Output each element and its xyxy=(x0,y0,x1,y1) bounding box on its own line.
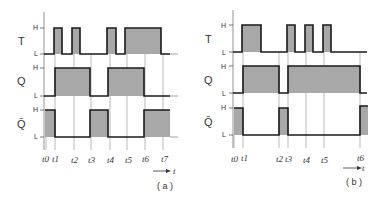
waveform-qbar-a xyxy=(45,110,178,137)
time-label-t4-b: t4 xyxy=(303,155,311,165)
diagram-a: H L H L H L T Q Q̄ t0 t1 t2 t3 t4 t5 t6 … xyxy=(17,12,178,191)
time-label-t5-a: t5 xyxy=(125,155,133,165)
time-label-t1-b: t1 xyxy=(241,153,248,163)
caption-a: ( a ) xyxy=(157,181,173,191)
level-l-q-a: L xyxy=(34,92,38,99)
time-label-t0-a: t0 xyxy=(42,154,50,164)
time-label-t3-b: t3 xyxy=(285,154,293,164)
level-l-t-b: L xyxy=(222,49,226,56)
time-label-t4-a: t4 xyxy=(107,155,115,165)
signal-name-q-b: Q xyxy=(204,74,213,86)
waveform-t-a xyxy=(44,28,178,54)
waveform-t-b xyxy=(233,25,367,52)
time-label-t3-a: t3 xyxy=(88,155,96,165)
diagram-b: H L H L H L T Q Q̄ t0 t1 t2 t3 t4 t5 t6 … xyxy=(204,10,368,187)
level-h-q-b: H xyxy=(221,63,226,70)
signal-name-q-a: Q xyxy=(17,75,26,87)
time-label-t7-a: t7 xyxy=(161,154,169,164)
level-l-qbar-b: L xyxy=(222,131,226,138)
time-label-t6-a: t6 xyxy=(142,154,150,164)
waveform-q-a xyxy=(44,68,178,96)
time-arrow-a: t xyxy=(153,166,176,176)
level-h-q-a: H xyxy=(33,64,38,71)
time-label-t1-a: t1 xyxy=(52,154,59,164)
signal-name-t-a: T xyxy=(18,35,25,47)
time-label-t0-b: t0 xyxy=(231,154,239,164)
level-h-t-a: H xyxy=(33,24,38,31)
time-axis-label-a: t xyxy=(173,166,176,176)
waveform-q-b xyxy=(233,66,367,93)
level-h-t-b: H xyxy=(221,22,226,29)
level-l-qbar-a: L xyxy=(34,133,38,140)
timing-diagrams: H L H L H L T Q Q̄ t0 t1 t2 t3 t4 t5 t6 … xyxy=(0,0,386,198)
time-label-t2-a: t2 xyxy=(71,155,79,165)
time-label-t6-b: t6 xyxy=(357,153,365,163)
time-label-t5-b: t5 xyxy=(321,155,329,165)
waveform-qbar-b xyxy=(234,106,368,135)
signal-name-qbar-b: Q̄ xyxy=(204,116,213,128)
level-h-qbar-b: H xyxy=(221,104,226,111)
level-l-t-a: L xyxy=(34,50,38,57)
time-label-t2-b: t2 xyxy=(276,154,284,164)
signal-name-qbar-a: Q̄ xyxy=(17,118,26,130)
time-axis-label-b: t xyxy=(362,163,365,173)
level-l-q-b: L xyxy=(222,90,226,97)
level-h-qbar-a: H xyxy=(33,106,38,113)
signal-name-t-b: T xyxy=(205,33,212,45)
time-arrow-b: t xyxy=(343,163,365,173)
caption-b: ( b ) xyxy=(346,177,362,187)
